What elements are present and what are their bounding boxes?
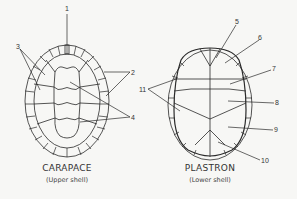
carapace-subtitle: (Upper shell) <box>27 176 107 184</box>
label-10: 10 <box>261 157 269 164</box>
plastron-subtitle: (Lower shell) <box>170 176 250 184</box>
label-6: 6 <box>258 34 262 41</box>
carapace-drawing <box>20 14 130 157</box>
label-7: 7 <box>272 65 276 72</box>
label-9: 9 <box>274 126 278 133</box>
plastron-title: PLASTRON <box>170 163 250 173</box>
carapace-title: CARAPACE <box>27 163 107 173</box>
label-3: 3 <box>16 43 20 50</box>
label-11: 11 <box>139 86 146 93</box>
label-4: 4 <box>131 114 135 121</box>
plastron-drawing <box>148 25 274 160</box>
label-5: 5 <box>235 18 239 25</box>
label-8: 8 <box>275 99 279 106</box>
label-2: 2 <box>131 69 135 76</box>
label-1: 1 <box>65 5 69 12</box>
